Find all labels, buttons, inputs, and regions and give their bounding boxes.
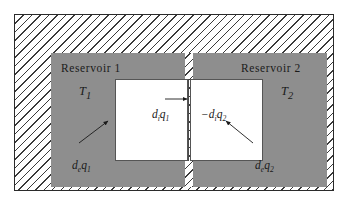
temperature-label-2: T2	[281, 85, 293, 101]
reservoir-2-title: Reservoir 2	[241, 63, 301, 75]
q-subscript-e1: 1	[87, 165, 91, 174]
temperature-symbol-2: T	[281, 84, 288, 98]
diagram-frame: Reservoir 1 Reservoir 2 T1 T2 diq1 −diq2…	[14, 14, 334, 191]
minus-sign-i2: −	[201, 108, 209, 120]
external-flux-label-1: deq1	[72, 160, 91, 174]
q-subscript-e2: 2	[270, 165, 274, 174]
q-subscript-i1: 1	[166, 114, 170, 123]
internal-flux-label-1: diq1	[152, 109, 169, 123]
reservoir-1-title: Reservoir 1	[61, 63, 121, 75]
q-subscript-i2: 2	[222, 114, 226, 123]
temperature-label-1: T1	[79, 85, 91, 101]
temperature-subscript-1: 1	[86, 90, 91, 101]
external-flux-label-2: deq2	[255, 160, 274, 174]
chamber-partition-line	[188, 79, 189, 161]
internal-flux-label-2: −diq2	[201, 109, 226, 123]
temperature-symbol-1: T	[79, 84, 86, 98]
temperature-subscript-2: 2	[288, 90, 293, 101]
thermodynamics-reservoir-diagram: Reservoir 1 Reservoir 2 T1 T2 diq1 −diq2…	[0, 0, 348, 205]
